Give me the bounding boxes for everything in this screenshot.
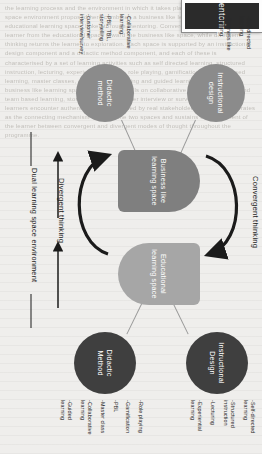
attributes-instructional-design-top: -Self directed learning -Business like l… <box>212 16 252 56</box>
node-label: Instructional design <box>207 69 225 117</box>
diagram-figure: Instructional design -Self directed lear… <box>0 0 262 454</box>
attribute-item: -Experiential learning <box>189 400 203 440</box>
attribute-item: -Structured instruction <box>222 400 236 440</box>
attribute-item: -Lecturing <box>209 400 216 440</box>
attribute-item: -Guided learning <box>59 400 73 440</box>
attribute-item: -Master class <box>99 400 106 440</box>
node-instructional-design-bottom[interactable]: Instructional Design <box>186 332 248 394</box>
node-instructional-design-top[interactable]: Instructional design <box>187 64 245 122</box>
space-business-like-learning[interactable]: Business like learning space <box>118 150 200 212</box>
space-educational-learning[interactable]: Educational learning space <box>118 243 200 305</box>
attribute-item: -Business like learning <box>218 16 232 56</box>
feed-arrow-educational-space <box>50 238 66 310</box>
node-didactic-method-top[interactable]: Didactic method <box>76 64 134 122</box>
connector-instructional-design-top <box>180 120 196 153</box>
node-label: Instructional Design <box>208 339 226 387</box>
attribute-item: -Self directed learning <box>238 16 252 56</box>
attribute-item: -Self-directed learning <box>242 400 256 440</box>
attributes-instructional-design-bottom: -Self-directed learning -Structured inst… <box>184 400 256 440</box>
node-label: Didactic Method <box>96 339 114 387</box>
connector-didactic-method-top <box>121 120 137 153</box>
attributes-didactic-method-bottom: -Role playing -Gamification -PBL -Master… <box>53 400 144 440</box>
attribute-item: -Collaborative learning <box>79 400 93 440</box>
attribute-item: -PBL, TBL, storytelling <box>98 14 112 54</box>
attribute-item: -Collaborative learning <box>118 14 132 54</box>
feed-arrow-business-space <box>50 148 66 220</box>
node-didactic-method-bottom[interactable]: Didactic Method <box>74 332 136 394</box>
connector-didactic-method-bottom <box>126 300 144 335</box>
space-label: Educational learning space <box>150 248 168 300</box>
attribute-item: -Role playing <box>137 400 144 440</box>
arrow-convergent-thinking <box>196 150 256 260</box>
arrow-convergent-label: Convergent thinking <box>251 176 260 248</box>
attribute-item: -Gamification <box>124 400 131 440</box>
arrow-divergent-thinking <box>60 150 120 260</box>
space-label: Business like learning space <box>150 155 168 207</box>
environment-label: Dual learning space environment <box>30 168 39 282</box>
attributes-didactic-method-top: -Collaborative learning -PBL, TBL, story… <box>72 14 132 54</box>
attribute-item: -PBL <box>111 400 118 440</box>
node-label: Didactic method <box>96 69 114 117</box>
attribute-item: -customer interview/survey <box>78 14 92 54</box>
